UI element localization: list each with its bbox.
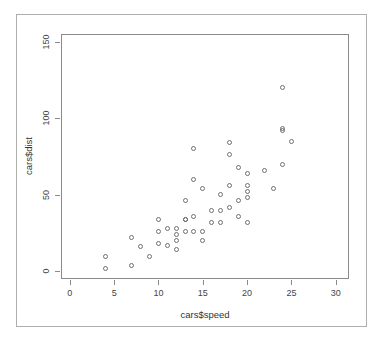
y-axis-label: cars$dist [23, 137, 34, 175]
y-axis-tick-label: 100 [41, 111, 51, 126]
y-axis-tick [55, 271, 60, 272]
x-axis-label: cars$speed [180, 309, 229, 320]
x-axis-tick [203, 280, 204, 285]
x-axis-tick-label: 20 [242, 288, 252, 298]
y-axis-tick [55, 42, 60, 43]
x-axis-tick-label: 0 [67, 288, 72, 298]
x-axis-tick [247, 280, 248, 285]
y-axis-tick [55, 195, 60, 196]
x-axis-tick-label: 5 [112, 288, 117, 298]
x-axis-tick-label: 30 [331, 288, 341, 298]
plot-area-box [61, 34, 349, 279]
x-axis-tick [114, 280, 115, 285]
y-axis-tick-label: 150 [41, 34, 51, 49]
x-axis-tick [158, 280, 159, 285]
x-axis-tick [291, 280, 292, 285]
x-axis-tick-label: 25 [286, 288, 296, 298]
x-axis-tick [336, 280, 337, 285]
plot-screenshot: 051015202530050100150 cars$speed cars$di… [0, 0, 385, 347]
y-axis-tick [55, 118, 60, 119]
x-axis-tick-label: 10 [153, 288, 163, 298]
x-axis-tick-label: 15 [198, 288, 208, 298]
x-axis-tick [70, 280, 71, 285]
y-axis-tick-label: 0 [41, 269, 51, 274]
y-axis-tick-label: 50 [41, 190, 51, 200]
